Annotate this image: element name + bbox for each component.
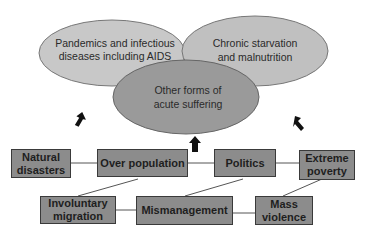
box-mismanagement: Mismanagement [136,196,233,225]
ellipse-starvation-line2: and malnutrition [218,51,293,63]
ellipse-acute-line2: acute suffering [154,98,223,110]
box-extreme-poverty: Extremepoverty [299,150,355,180]
arrow-center-icon [189,136,201,152]
ellipse-starvation-line1: Chronic starvation [213,37,298,49]
box-mismanagement-label: Mismanagement [141,204,227,217]
box-natural-disasters-line1: Natural [17,151,65,164]
box-over-population-label: Over population [100,157,184,170]
arrow-left-icon [75,111,87,128]
box-natural-disasters: Naturaldisasters [11,149,71,178]
box-involuntary-migration: Involuntarymigration [40,196,116,224]
arrow-right-icon [293,116,304,131]
ellipse-pandemics-line2: diseases including AIDS [59,50,172,62]
box-involuntary-migration-line1: Involuntary [48,197,107,210]
box-natural-disasters-line2: disasters [17,164,65,177]
ellipse-acute-suffering [113,60,259,134]
box-extreme-poverty-line2: poverty [305,165,348,178]
ellipse-pandemics-line1: Pandemics and infectious [55,37,175,49]
box-politics: Politics [214,149,276,177]
box-involuntary-migration-line2: migration [48,210,107,223]
box-mass-violence: Massviolence [255,196,313,225]
ellipse-acute-line1: Other forms of [154,84,221,96]
box-politics-label: Politics [225,157,264,170]
box-extreme-poverty-line1: Extreme [305,152,348,165]
box-over-population: Over population [97,149,188,177]
box-mass-violence-line1: Mass [262,198,306,211]
box-mass-violence-line2: violence [262,211,306,224]
